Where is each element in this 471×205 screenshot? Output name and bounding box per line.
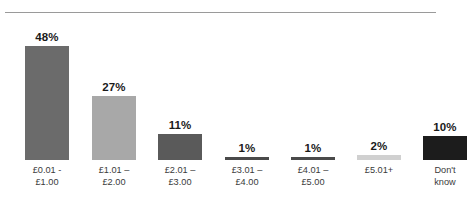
bar-wrapper xyxy=(291,45,335,160)
bar-column: 48% £0.01 - £1.00 xyxy=(25,0,69,205)
bar-rect xyxy=(158,134,202,160)
bar-column: 1% £3.01 – £4.00 xyxy=(225,0,269,205)
bar-rect xyxy=(291,157,335,160)
bar-column: 1% £4.01 – £5.00 xyxy=(291,0,335,205)
bar-column: 10% Don't know xyxy=(423,0,467,205)
bar-column: 2% £5.01+ xyxy=(357,0,401,205)
bar-column: 27% £1.01 – £2.00 xyxy=(92,0,136,205)
category-label: £0.01 - £1.00 xyxy=(16,165,78,188)
category-label: £1.01 – £2.00 xyxy=(83,165,145,188)
bar-rect xyxy=(25,46,69,160)
category-label: £2.01 – £3.00 xyxy=(149,165,211,188)
bar-rect xyxy=(92,96,136,160)
bar-wrapper xyxy=(25,45,69,160)
bar-value-label: 48% xyxy=(17,31,77,43)
category-label: £3.01 – £4.00 xyxy=(216,165,278,188)
category-label: £5.01+ xyxy=(348,165,410,177)
bar-rect xyxy=(423,136,467,160)
bar-rect xyxy=(225,157,269,160)
bar-column: 11% £2.01 – £3.00 xyxy=(158,0,202,205)
bar-rect xyxy=(357,155,401,160)
bar-wrapper xyxy=(357,45,401,160)
bar-wrapper xyxy=(423,45,467,160)
bar-wrapper xyxy=(158,45,202,160)
category-label: Don't know xyxy=(414,165,471,188)
bar-wrapper xyxy=(92,45,136,160)
bar-wrapper xyxy=(225,45,269,160)
category-label: £4.01 – £5.00 xyxy=(282,165,344,188)
